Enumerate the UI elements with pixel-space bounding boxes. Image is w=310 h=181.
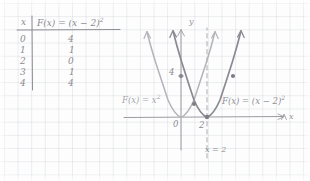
graph-paper-sheet: x F(x) = (x − 2)2 0 4 1 1 2 0 3 1 4 4 F(…	[0, 0, 310, 181]
point-4-4	[231, 74, 235, 78]
point-2-0	[205, 115, 209, 119]
table-column-divider	[32, 16, 33, 90]
point-1-1	[192, 102, 196, 106]
x-axis	[124, 117, 284, 118]
graph-drawing	[0, 0, 310, 181]
